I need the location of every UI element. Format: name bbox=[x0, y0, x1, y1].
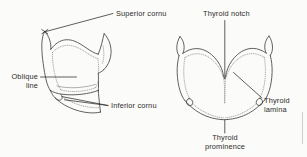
anterior-right-cornu-outer bbox=[269, 36, 273, 55]
label-oblique-line-2: line bbox=[0, 81, 38, 90]
anterior-left-inferior-tubercle bbox=[186, 99, 192, 106]
label-thyroid-notch: Thyroid notch bbox=[203, 9, 250, 18]
label-thyroid-lamina-1: Thyroid bbox=[264, 96, 290, 105]
lateral-view-dotted-contours bbox=[52, 45, 103, 107]
anterior-right-cornu-inner bbox=[265, 36, 269, 53]
label-thyroid-prominence-2: prominence bbox=[189, 142, 261, 151]
anterior-right-outer-border bbox=[265, 55, 272, 100]
lateral-lower-outline bbox=[55, 98, 101, 113]
page-trim-mark bbox=[302, 112, 303, 144]
anterior-left-inferior-border bbox=[185, 100, 222, 119]
lateral-posterior-lower bbox=[98, 70, 103, 73]
leader-thyroid-lamina bbox=[234, 73, 263, 99]
anterior-left-cornu-outer bbox=[177, 37, 180, 56]
label-oblique-line-1: Oblique bbox=[0, 72, 38, 81]
leader-superior-cornu bbox=[45, 14, 113, 32]
lateral-posterior-cornu-inner bbox=[98, 34, 104, 55]
lateral-lower-posterior bbox=[98, 90, 100, 112]
anterior-right-inferior-border bbox=[227, 100, 264, 120]
lateral-inferior-border bbox=[50, 90, 98, 94]
leader-lines bbox=[41, 14, 263, 134]
thyroid-cartilage-figure: Superior cornu Oblique line Inferior cor… bbox=[0, 0, 307, 157]
anterior-right-inferior-tubercle bbox=[256, 98, 262, 105]
lateral-thyroid-notch-contour bbox=[51, 40, 98, 54]
label-thyroid-lamina-2: lamina bbox=[264, 105, 287, 114]
leader-endpoint-ticks bbox=[42, 30, 48, 34]
oblique-line-detail bbox=[57, 84, 96, 87]
anterior-left-superior-border bbox=[183, 49, 224, 76]
label-inferior-cornu: Inferior cornu bbox=[111, 101, 157, 110]
label-thyroid-prominence-1: Thyroid bbox=[189, 133, 261, 142]
anterior-left-cornu-inner bbox=[180, 37, 184, 54]
anterior-left-outer-border bbox=[177, 56, 184, 101]
lateral-view-drawing bbox=[42, 32, 111, 113]
lateral-anterior-border bbox=[42, 32, 51, 91]
leader-inferior-cornu-lower bbox=[65, 100, 109, 106]
label-superior-cornu: Superior cornu bbox=[116, 9, 167, 18]
lateral-superior-cornu-tip bbox=[45, 32, 51, 50]
lateral-posterior-cornu-outer bbox=[104, 34, 111, 70]
anterior-right-superior-border bbox=[226, 48, 266, 76]
